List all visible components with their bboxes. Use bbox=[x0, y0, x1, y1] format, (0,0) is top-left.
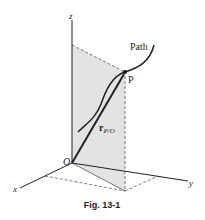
point-p-dot bbox=[123, 70, 127, 74]
point-p-label: P bbox=[128, 74, 134, 85]
x-axis-label: x bbox=[12, 184, 17, 194]
y-axis-label: y bbox=[188, 178, 193, 188]
dashed-y-parallel bbox=[125, 176, 158, 191]
z-axis-label: z bbox=[68, 11, 73, 21]
path-label: Path bbox=[130, 41, 148, 52]
figure-diagram: z x y O P Path rP/O Fig. 13-1 bbox=[0, 0, 205, 220]
origin-label: O bbox=[63, 156, 70, 167]
vector-subscript: P/O bbox=[102, 127, 114, 135]
figure-caption: Fig. 13-1 bbox=[84, 200, 121, 210]
